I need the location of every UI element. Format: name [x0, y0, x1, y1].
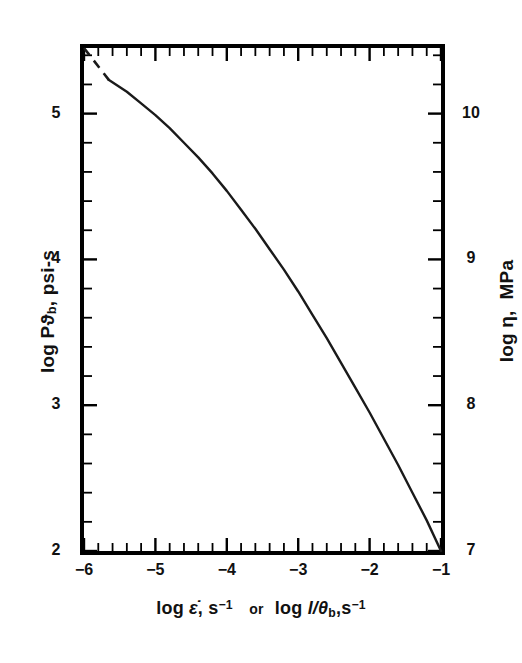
- y-axis-right-title: log η, MPa: [496, 196, 518, 426]
- x-title-sub2: b: [328, 606, 336, 620]
- data-curve-extrapolated: [84, 48, 109, 80]
- x-tick-label-1: −5: [135, 561, 175, 579]
- x-title-log2: log: [275, 598, 303, 618]
- y-right-tick-label-0: 10: [451, 104, 491, 122]
- y-right-tick-label-1: 9: [451, 249, 491, 267]
- figure-container: −6−5−4−3−2−1 5432 10987 log Pϑb, psi-s l…: [0, 0, 522, 663]
- y-left-title-sub: b: [44, 306, 59, 314]
- y-left-tick-label-3: 2: [36, 541, 76, 559]
- y-left-title-unit: psi-s: [37, 250, 58, 295]
- y-left-title-log: log: [37, 344, 58, 373]
- y-right-tick-label-3: 7: [451, 541, 491, 559]
- x-title-var2: l/θ: [308, 598, 329, 618]
- x-title-exp2: −1: [351, 598, 365, 612]
- x-tick-label-3: −3: [278, 561, 318, 579]
- y-right-tick-label-2: 8: [451, 395, 491, 413]
- data-curve-main: [109, 80, 441, 551]
- y-right-title-log: log: [496, 333, 517, 362]
- x-title-log1: log: [156, 598, 184, 618]
- x-tick-label-0: −6: [64, 561, 104, 579]
- y-right-title-var: η: [496, 316, 517, 328]
- x-axis-title: log ε̇, s−1 or log l/θb,s−1: [0, 598, 522, 620]
- y-axis-right-ticks: [428, 55, 441, 551]
- x-axis-ticks: [84, 538, 441, 551]
- y-axis-left-ticks: [84, 55, 97, 551]
- x-tick-label-5: −1: [421, 561, 461, 579]
- x-title-var1: ε̇: [189, 598, 198, 618]
- x-tick-label-4: −2: [350, 561, 390, 579]
- y-right-title-comma: ,: [496, 310, 517, 315]
- x-title-exp1: −1: [218, 598, 232, 612]
- y-left-title-var: Pϑ: [37, 314, 58, 338]
- x-tick-label-2: −4: [207, 561, 247, 579]
- x-title-unit1: s: [208, 598, 218, 618]
- x-title-or: or: [243, 601, 269, 617]
- y-left-tick-label-0: 5: [36, 104, 76, 122]
- plot-frame: [82, 46, 443, 553]
- x-title-unit2: s: [341, 598, 351, 618]
- y-right-title-unit: MPa: [496, 260, 517, 300]
- y-axis-left-title: log Pϑb, psi-s: [37, 196, 60, 426]
- x-axis-ticks-top: [84, 48, 441, 61]
- y-left-title-comma: ,: [37, 301, 58, 306]
